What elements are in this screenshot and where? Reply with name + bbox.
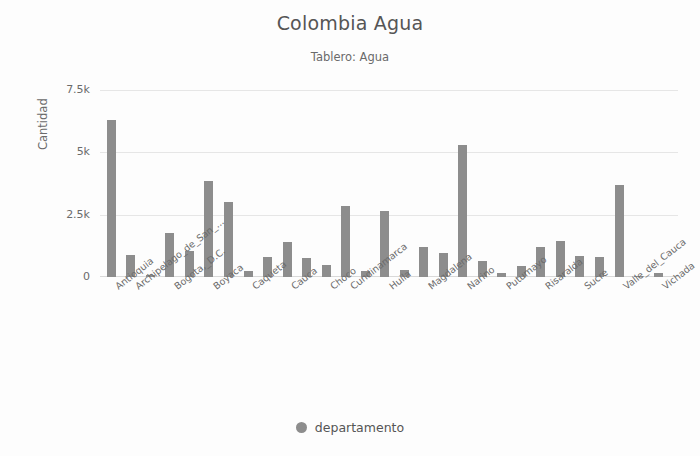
y-axis-tick-label: 5k <box>52 145 90 158</box>
bar[interactable] <box>107 120 116 277</box>
gridline <box>100 90 678 91</box>
legend-marker-icon <box>296 422 307 433</box>
chart-container: Colombia Agua Tablero: Agua Cantidad 02.… <box>0 0 700 456</box>
bar[interactable] <box>283 242 292 277</box>
chart-legend[interactable]: departamento <box>0 420 700 435</box>
bar[interactable] <box>244 271 253 277</box>
chart-title: Colombia Agua <box>0 12 700 34</box>
y-axis-tick-label: 0 <box>52 270 90 283</box>
bar[interactable] <box>654 273 663 277</box>
chart-subtitle: Tablero: Agua <box>0 50 700 64</box>
bar[interactable] <box>497 273 506 277</box>
legend-label: departamento <box>315 420 404 435</box>
y-axis-tick-label: 2.5k <box>52 208 90 221</box>
bar[interactable] <box>615 185 624 277</box>
y-axis-tick-label: 7.5k <box>52 83 90 96</box>
y-axis-label: Cantidad <box>36 98 50 150</box>
bar[interactable] <box>322 265 331 277</box>
gridline <box>100 152 678 153</box>
bar[interactable] <box>419 247 428 277</box>
